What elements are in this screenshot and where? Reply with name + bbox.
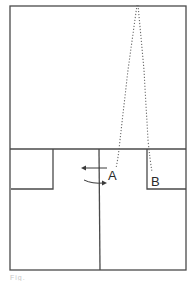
point-label-a: A — [108, 168, 117, 183]
left-small-room — [11, 149, 53, 189]
dotted-path-to-a — [116, 5, 137, 168]
diagram-figure: A B — [0, 0, 194, 281]
arrow-left-head-icon — [81, 166, 86, 171]
arrow-curved-right-icon — [84, 180, 104, 183]
vertical-divider — [99, 149, 100, 270]
point-label-b: B — [151, 174, 160, 189]
arrow-curved-right-head-icon — [102, 181, 107, 186]
figure-caption: Fig. — [10, 274, 26, 281]
dotted-path-to-b — [138, 5, 152, 172]
outer-frame — [10, 6, 186, 270]
